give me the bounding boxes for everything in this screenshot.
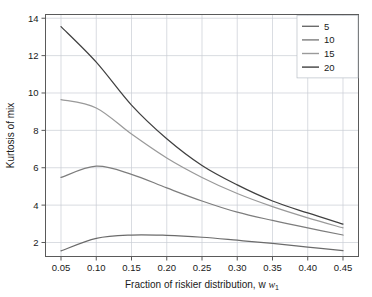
xtick-label-0.35: 0.35	[263, 262, 282, 273]
ytick-label-4: 4	[33, 200, 38, 211]
legend-label-5[interactable]: 5	[324, 21, 329, 32]
x-axis-tick-labels: 0.050.100.150.200.250.300.350.400.45	[52, 262, 352, 273]
y-axis-title: Kurtosis of mix	[5, 103, 16, 169]
xtick-label-0.10: 0.10	[87, 262, 106, 273]
ytick-label-14: 14	[28, 13, 39, 24]
legend-label-20[interactable]: 20	[324, 62, 335, 73]
xtick-label-0.05: 0.05	[52, 262, 71, 273]
x-axis-title: Fraction of riskier distribution, w w1	[125, 279, 279, 292]
legend-label-15[interactable]: 15	[324, 48, 335, 59]
kurtosis-line-chart: 2468101214 0.050.100.150.200.250.300.350…	[0, 0, 372, 297]
xtick-label-0.45: 0.45	[334, 262, 353, 273]
chart-container: 2468101214 0.050.100.150.200.250.300.350…	[0, 0, 372, 297]
xtick-label-0.15: 0.15	[122, 262, 141, 273]
legend-label-10[interactable]: 10	[324, 34, 335, 45]
ytick-label-10: 10	[28, 87, 39, 98]
ytick-label-6: 6	[33, 162, 38, 173]
ytick-label-8: 8	[33, 125, 38, 136]
xtick-label-0.30: 0.30	[228, 262, 247, 273]
ytick-label-12: 12	[28, 50, 39, 61]
ytick-label-2: 2	[33, 237, 38, 248]
xtick-label-0.20: 0.20	[158, 262, 177, 273]
xtick-label-0.25: 0.25	[193, 262, 212, 273]
chart-legend[interactable]: 5101520	[297, 16, 358, 78]
xtick-label-0.40: 0.40	[298, 262, 317, 273]
